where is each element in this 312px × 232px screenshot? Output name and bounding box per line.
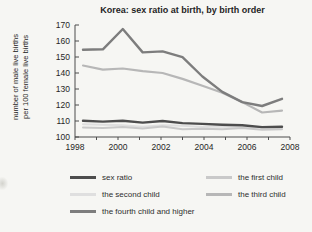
legend-item-the-fourth-child-and-higher: the fourth child and higher: [70, 207, 195, 216]
legend-item-the-third-child: the third child: [206, 190, 286, 199]
legend-swatch-icon: [70, 176, 96, 179]
legend-label: the third child: [238, 190, 286, 199]
legend-item-the-first-child: the first child: [206, 173, 283, 182]
legend-swatch-icon: [70, 210, 96, 213]
chart-legend: sex ratiothe first childthe second child…: [0, 0, 312, 232]
legend-label: the second child: [102, 190, 160, 199]
legend-swatch-icon: [206, 176, 232, 179]
legend-swatch-icon: [70, 193, 96, 196]
legend-label: the first child: [238, 173, 283, 182]
legend-item-the-second-child: the second child: [70, 190, 160, 199]
chart-page: Korea: sex ratio at birth, by birth orde…: [0, 0, 312, 232]
legend-item-sex-ratio: sex ratio: [70, 173, 132, 182]
legend-swatch-icon: [206, 193, 232, 196]
legend-label: the fourth child and higher: [102, 207, 195, 216]
legend-label: sex ratio: [102, 173, 132, 182]
